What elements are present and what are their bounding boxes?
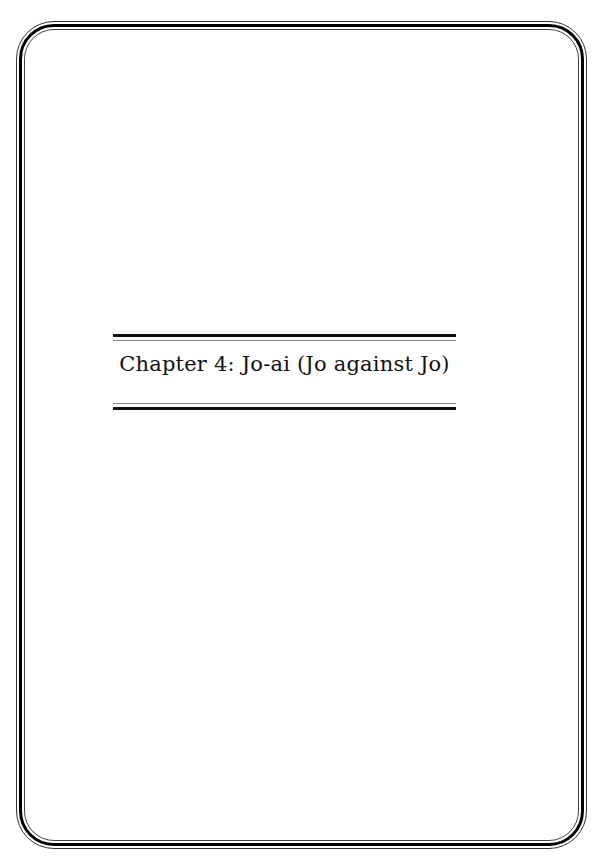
title-rule-bottom-thin <box>113 403 456 404</box>
chapter-title: Chapter 4: Jo-ai (Jo against Jo) <box>113 352 456 376</box>
title-rule-top-thick <box>113 334 456 337</box>
title-rule-bottom-thick <box>113 407 456 410</box>
page-border-inner <box>24 29 579 841</box>
title-rule-top-thin <box>113 340 456 341</box>
